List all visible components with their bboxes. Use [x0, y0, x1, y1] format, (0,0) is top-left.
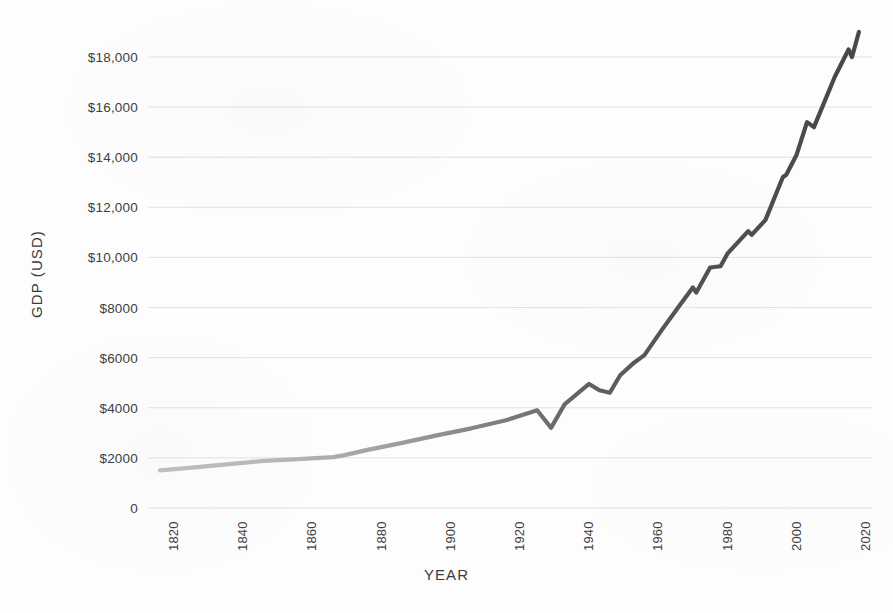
y-tick-label: $16,000 — [40, 100, 138, 115]
x-tick-label: 2020 — [858, 521, 873, 551]
x-tick-label: 1820 — [166, 521, 181, 551]
y-tick-label: $10,000 — [40, 250, 138, 265]
x-tick-label: 1940 — [581, 521, 596, 551]
y-tick-label: 0 — [40, 501, 138, 516]
chart-page: 0$2000$4000$6000$8000$10,000$12,000$14,0… — [0, 0, 893, 613]
y-tick-label: $6000 — [40, 350, 138, 365]
y-tick-label: $8000 — [40, 300, 138, 315]
y-tick-label: $14,000 — [40, 150, 138, 165]
x-tick-label: 1960 — [650, 521, 665, 551]
x-tick-label: 1920 — [512, 521, 527, 551]
y-tick-label: $4000 — [40, 400, 138, 415]
x-tick-label: 1980 — [720, 521, 735, 551]
x-axis-title: YEAR — [0, 566, 893, 583]
gdp-line-chart: 0$2000$4000$6000$8000$10,000$12,000$14,0… — [0, 0, 893, 613]
x-tick-label: 1860 — [304, 521, 319, 551]
y-tick-label: $12,000 — [40, 200, 138, 215]
y-tick-label: $18,000 — [40, 50, 138, 65]
gdp-data-line — [160, 32, 859, 470]
x-tick-label: 1900 — [443, 521, 458, 551]
x-tick-label: 1840 — [235, 521, 250, 551]
x-tick-label: 2000 — [789, 521, 804, 551]
y-tick-label: $2000 — [40, 450, 138, 465]
x-tick-label: 1880 — [374, 521, 389, 551]
gridlines — [148, 57, 872, 508]
y-axis-title: GDP (USD) — [28, 230, 45, 318]
gdp-series-line — [160, 32, 859, 470]
